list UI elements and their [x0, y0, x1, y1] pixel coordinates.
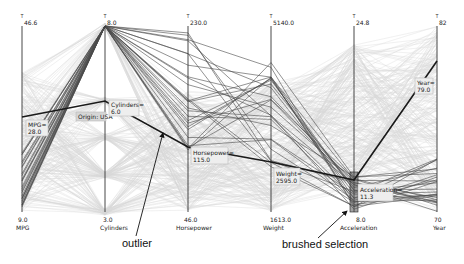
axis-name-cylinders: Cylinders: [100, 224, 128, 232]
axis-max-cylinders: 8.0: [107, 19, 117, 26]
tooltip-weight: Weight= 2595.0: [274, 168, 302, 185]
svg-text:6.0: 6.0: [111, 108, 121, 115]
svg-text:79.0: 79.0: [417, 86, 431, 93]
axis-min-mpg: 9.0: [18, 216, 28, 223]
tooltip-origin: Origin: USA: [76, 112, 113, 121]
svg-text:Acceleration=: Acceleration=: [360, 186, 402, 193]
tooltip-mpg: MPG= 28.0: [26, 120, 48, 136]
svg-text:115.0: 115.0: [193, 156, 210, 163]
axis-name-mpg: MPG: [16, 224, 30, 231]
axis-max-year: 82: [439, 19, 447, 26]
tooltip-cylinders: Cylinders= 6.0: [109, 100, 144, 116]
axis-min-horsepower: 46.0: [184, 216, 198, 223]
axis-max-weight: 5140.0: [273, 19, 294, 26]
axis-name-acceleration: Acceleration: [340, 224, 377, 231]
axis-max-mpg: 46.6: [24, 19, 38, 26]
axis-max-horsepower: 230.0: [190, 19, 207, 26]
brushed-selection-annotation: brushed selection: [282, 238, 368, 250]
axis-min-weight: 1613.0: [270, 216, 291, 223]
axis-name-horsepower: Horsepower: [176, 224, 213, 232]
axis-name-weight: Weight: [263, 224, 285, 232]
axis-flip-icons: T T T T T T: [21, 13, 439, 19]
svg-text:11.3: 11.3: [360, 193, 374, 200]
svg-text:Origin: USA: Origin: USA: [78, 113, 113, 121]
svg-text:28.0: 28.0: [28, 128, 42, 135]
tooltip-year: Year= 79.0: [415, 78, 435, 94]
axis-max-acceleration: 24.8: [356, 19, 370, 26]
axis-min-year: 70: [434, 216, 442, 223]
tooltip-horsepower: Horsepower= 115.0: [191, 147, 234, 164]
svg-text:2595.0: 2595.0: [276, 177, 297, 184]
axis-min-cylinders: 3.0: [103, 216, 113, 223]
outlier-annotation: outlier: [122, 237, 152, 249]
parallel-coordinates-chart: T T T T T T 46.6 8.0 230.0 5140.0 24.8 8…: [0, 0, 464, 264]
svg-text:MPG=: MPG=: [28, 121, 46, 128]
axis-name-year: Year: [432, 224, 446, 231]
axis-min-acceleration: 8.0: [356, 216, 366, 223]
svg-text:Year=: Year=: [416, 79, 435, 86]
brush-acceleration[interactable]: [350, 172, 358, 212]
